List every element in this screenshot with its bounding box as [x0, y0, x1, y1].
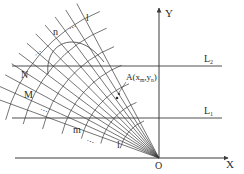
label-l-top: l	[86, 12, 89, 23]
grid-ray	[55, 17, 159, 158]
point-a-dot	[116, 97, 119, 100]
ellipsis-left: …	[31, 46, 43, 58]
grid-ray	[66, 10, 159, 158]
point-a-label: A(xm,yn)	[126, 72, 157, 83]
l1-label: L1	[204, 105, 213, 117]
label-l-bottom: l	[117, 139, 120, 150]
x-axis-label: X	[226, 158, 234, 170]
label-n: n	[53, 26, 58, 37]
grid-ray	[36, 34, 159, 158]
label-N: N	[21, 69, 28, 80]
ellipsis-bottom: …	[86, 134, 97, 145]
label-M: M	[24, 89, 33, 100]
grid-ray	[45, 25, 159, 158]
polar-grid-diagram: Y X O L2 L1 A(xm,yn) n … l … N M … m … l	[0, 0, 244, 174]
ellipsis-top: …	[66, 20, 77, 32]
inner-curve	[48, 42, 104, 74]
origin-label: O	[155, 160, 162, 171]
label-m: m	[73, 124, 81, 135]
l2-label: L2	[204, 53, 213, 65]
diagram-canvas: Y X O L2 L1 A(xm,yn) n … l … N M … m … l	[0, 0, 244, 174]
y-axis-label: Y	[165, 7, 173, 19]
grid-ray	[5, 75, 159, 158]
